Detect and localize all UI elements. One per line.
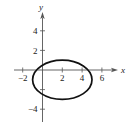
x-tick-label: 4 bbox=[80, 73, 85, 83]
y-axis-arrow-icon bbox=[40, 12, 44, 19]
x-tick-label: 6 bbox=[100, 73, 105, 83]
x-axis-label: x bbox=[120, 65, 125, 75]
y-axis-label: y bbox=[38, 2, 43, 12]
y-tick-label: 4 bbox=[33, 26, 38, 36]
x-tick-label: 2 bbox=[60, 73, 65, 83]
x-tick-label: −2 bbox=[18, 73, 28, 83]
y-tick-label: 2 bbox=[33, 46, 38, 56]
ellipse-graph: xy −224642−4 bbox=[0, 0, 133, 125]
y-tick-label: −4 bbox=[28, 104, 38, 114]
